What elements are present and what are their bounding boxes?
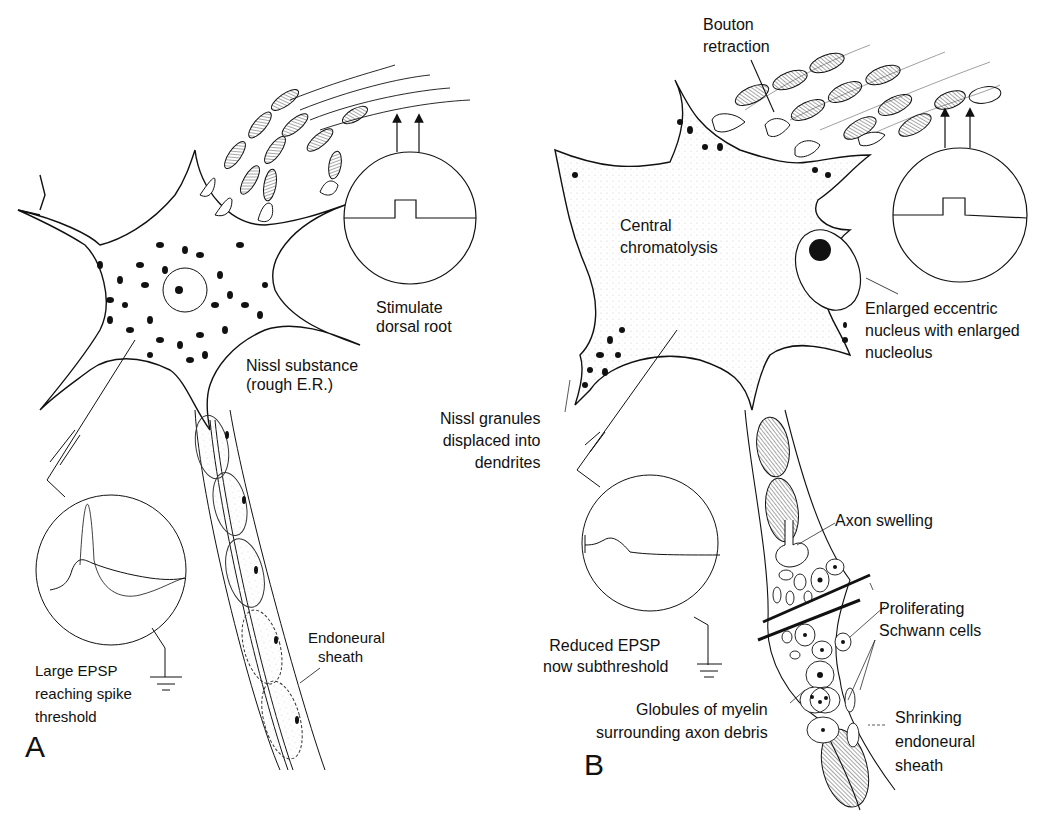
label-globules-of-myelin: Globules of myelin surrounding axon debr… bbox=[596, 698, 768, 744]
label-enlarged-nucleus: Enlarged eccentric nucleus with enlarged… bbox=[865, 298, 1020, 364]
label-line: (rough E.R.) bbox=[246, 375, 358, 394]
label-line: endoneural bbox=[895, 730, 975, 754]
presynaptic-fibers-a bbox=[290, 65, 470, 130]
nucleolus-b bbox=[809, 239, 831, 261]
label-nissl-substance: Nissl substance (rough E.R.) bbox=[246, 356, 358, 394]
label-line: dorsal root bbox=[376, 317, 452, 336]
myelin-b bbox=[753, 415, 877, 812]
label-line: Shrinking bbox=[895, 706, 975, 730]
label-line: dendrites bbox=[440, 452, 540, 474]
label-reduced-epsp: Reduced EPSP now subthreshold bbox=[543, 635, 668, 677]
label-line: surrounding axon debris bbox=[596, 721, 768, 744]
label-line: reaching spike bbox=[35, 682, 132, 705]
label-central-chromatolysis: Central chromatolysis bbox=[620, 215, 718, 259]
label-line: Globules of myelin bbox=[596, 698, 768, 721]
stimulus-scope-b bbox=[893, 112, 1027, 282]
label-line: retraction bbox=[703, 36, 770, 58]
schwann-cells-a bbox=[191, 413, 310, 764]
label-line: Nissl granules bbox=[440, 408, 540, 430]
label-line: Proliferating bbox=[879, 598, 981, 620]
nucleolus-a bbox=[175, 286, 183, 294]
label-line: Nissl substance bbox=[246, 356, 358, 375]
nucleus-a bbox=[163, 268, 207, 312]
label-line: Stimulate bbox=[376, 298, 452, 317]
label-shrinking-endoneural-sheath: Shrinking endoneural sheath bbox=[895, 706, 975, 778]
panel-letter-b: B bbox=[584, 748, 604, 782]
label-line: Enlarged eccentric bbox=[865, 298, 1020, 320]
label-line: Endoneural bbox=[308, 628, 385, 647]
label-line: chromatolysis bbox=[620, 237, 718, 259]
label-line: sheath bbox=[895, 754, 975, 778]
panel-letter-a: A bbox=[25, 730, 45, 764]
label-line: now subthreshold bbox=[543, 656, 668, 677]
label-line: sheath bbox=[308, 647, 385, 666]
schwann-proliferation-b bbox=[773, 559, 859, 747]
label-stimulate-dorsal-root: Stimulate dorsal root bbox=[376, 298, 452, 336]
label-endoneural-sheath-a: Endoneural sheath bbox=[308, 628, 385, 666]
label-bouton-retraction: Bouton retraction bbox=[703, 14, 770, 58]
label-line: threshold bbox=[35, 705, 132, 728]
label-line: Bouton bbox=[703, 14, 770, 36]
label-line: nucleolus bbox=[865, 342, 1020, 364]
label-proliferating-schwann-cells: Proliferating Schwann cells bbox=[879, 598, 981, 642]
label-line: Central bbox=[620, 215, 718, 237]
stimulus-scope-a bbox=[344, 118, 476, 284]
label-line: nucleus with enlarged bbox=[865, 320, 1020, 342]
label-nissl-granules-displaced: Nissl granules displaced into dendrites bbox=[440, 408, 540, 474]
boutons-a bbox=[221, 86, 370, 202]
label-line: Reduced EPSP bbox=[543, 635, 668, 656]
label-line: Axon swelling bbox=[835, 511, 933, 530]
label-large-epsp: Large EPSP reaching spike threshold bbox=[35, 659, 132, 728]
label-line: Large EPSP bbox=[35, 659, 132, 682]
label-line: Schwann cells bbox=[879, 620, 981, 642]
label-axon-swelling: Axon swelling bbox=[835, 511, 933, 530]
label-line: displaced into bbox=[440, 430, 540, 452]
